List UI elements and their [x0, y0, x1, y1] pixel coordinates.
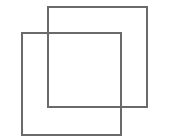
front-square — [21, 32, 122, 136]
